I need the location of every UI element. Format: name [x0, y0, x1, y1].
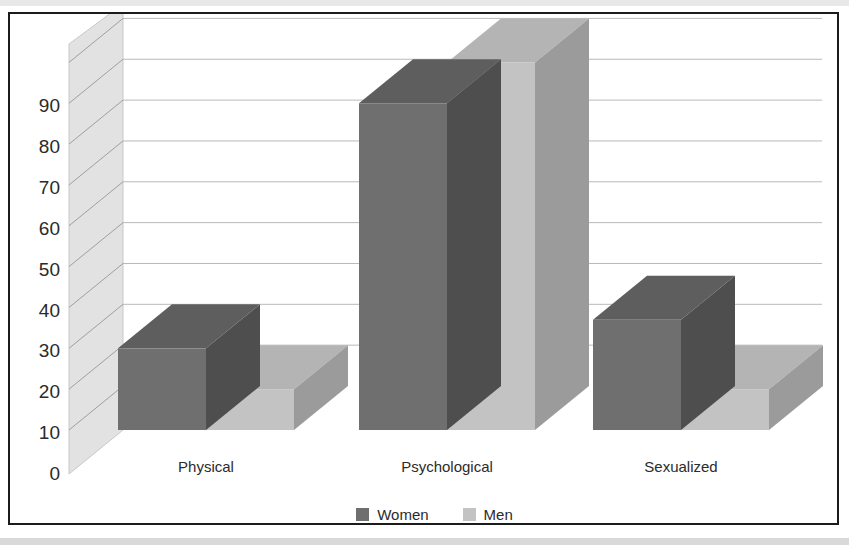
y-axis-tick-label: 80	[10, 137, 60, 156]
y-axis-tick-label: 70	[10, 178, 60, 197]
chart-figure: WomenMen 9080706050403020100PhysicalPsyc…	[0, 0, 849, 545]
category-label-psychological: Psychological	[317, 458, 577, 475]
legend-swatch-icon	[463, 508, 476, 521]
bar-front-face	[118, 348, 206, 430]
legend-entry-men[interactable]: Men	[463, 506, 513, 523]
bar-chart-3d	[10, 14, 837, 523]
bar-women-psychological	[359, 59, 501, 430]
chart-frame: WomenMen 9080706050403020100PhysicalPsyc…	[8, 12, 839, 525]
category-label-physical: Physical	[76, 458, 336, 475]
bar-side-face	[447, 59, 501, 430]
legend-label: Men	[484, 506, 513, 523]
y-axis-tick-label: 10	[10, 423, 60, 442]
category-label-sexualized: Sexualized	[551, 458, 811, 475]
y-axis-tick-label: 50	[10, 260, 60, 279]
legend-entry-women[interactable]: Women	[356, 506, 428, 523]
y-axis-tick-label: 40	[10, 301, 60, 320]
bar-side-face	[535, 18, 589, 430]
y-axis-tick-label: 0	[10, 464, 60, 483]
y-axis-tick-label: 90	[10, 96, 60, 115]
y-axis-tick-label: 20	[10, 382, 60, 401]
legend-swatch-icon	[356, 508, 369, 521]
y-axis-tick-label: 60	[10, 219, 60, 238]
chart-legend: WomenMen	[10, 506, 849, 523]
plot-area	[10, 14, 837, 523]
legend-label: Women	[377, 506, 428, 523]
bar-front-face	[593, 320, 681, 430]
bar-front-face	[359, 103, 447, 430]
y-axis-tick-label: 30	[10, 341, 60, 360]
top-edge-strip	[0, 0, 849, 6]
bottom-edge-strip	[0, 538, 849, 545]
